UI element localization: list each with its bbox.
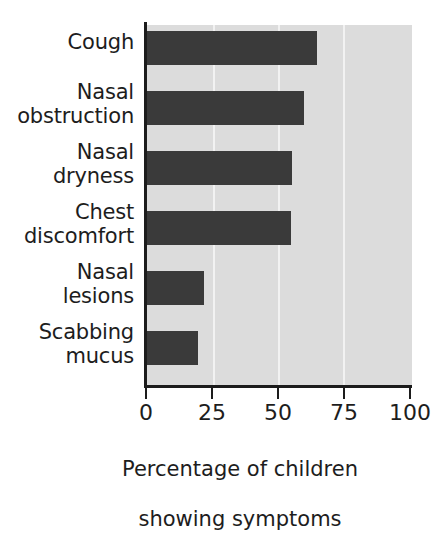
gridline-75 [343,25,345,385]
gridline-50 [278,25,280,385]
x-tick-label-50: 50 [264,400,292,426]
bar-chest-discomfort [146,211,291,245]
x-tick-label-75: 75 [330,400,358,426]
bar-nasal-obstruction [146,91,304,125]
x-tick-25 [211,388,213,399]
x-tick-0 [145,388,147,399]
y-axis-category-labels: Cough Nasal obstruction Nasal dryness Ch… [0,25,140,385]
bar-nasal-lesions [146,271,204,305]
gridline-25 [213,25,215,385]
x-tick-label-100: 100 [389,400,431,426]
x-axis-title: Percentage of children showing symptoms [60,432,420,534]
y-axis-label-chest-discomfort: Chest discomfort [0,200,134,234]
y-axis-line [144,22,147,388]
bar-scabbing-mucus [146,331,198,365]
y-axis-label-nasal-lesions: Nasal lesions [0,260,134,294]
y-axis-label-cough: Cough [0,25,134,59]
y-axis-label-scabbing-mucus: Scabbing mucus [0,320,134,354]
bar-nasal-dryness [146,151,292,185]
x-axis-title-line-1: Percentage of children [60,457,420,482]
y-axis-label-nasal-dryness: Nasal dryness [0,140,134,174]
x-tick-50 [277,388,279,399]
x-axis-title-line-2: showing symptoms [60,507,420,532]
y-axis-label-nasal-obstruction: Nasal obstruction [0,80,134,114]
x-tick-label-25: 25 [198,400,226,426]
plot-area [146,25,412,385]
bar-cough [146,31,317,65]
x-tick-100 [409,388,411,399]
x-tick-75 [343,388,345,399]
x-tick-label-0: 0 [139,400,153,426]
